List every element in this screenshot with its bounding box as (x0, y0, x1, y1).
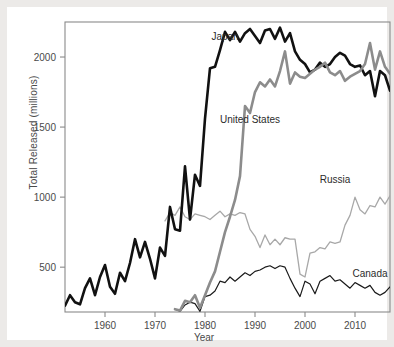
x-axis-tick-label: 2000 (294, 320, 317, 331)
x-axis-tick-label: 2010 (344, 320, 367, 331)
series-line-japan (65, 28, 390, 306)
series-label-japan: Japan (211, 31, 238, 42)
x-axis-label: Year (7, 332, 394, 343)
y-axis-label: Total Released (millions) (28, 63, 39, 203)
plot-frame (65, 22, 390, 312)
chart-figure: 500100015002000196019701980199020002010J… (0, 0, 394, 347)
series-label-canada: Canada (352, 268, 387, 279)
x-axis-tick-label: 1990 (244, 320, 267, 331)
series-group (65, 28, 390, 312)
x-axis-tick-label: 1970 (144, 320, 167, 331)
series-label-russia: Russia (320, 174, 351, 185)
series-line-russia (165, 196, 390, 277)
y-axis-tick-label: 500 (39, 262, 56, 273)
x-axis-tick-label: 1960 (94, 320, 117, 331)
y-axis-tick-label: 2000 (34, 52, 57, 63)
line-chart-svg: 500100015002000196019701980199020002010J… (7, 7, 394, 347)
x-axis-tick-label: 1980 (194, 320, 217, 331)
series-label-united-states: United States (220, 114, 280, 125)
